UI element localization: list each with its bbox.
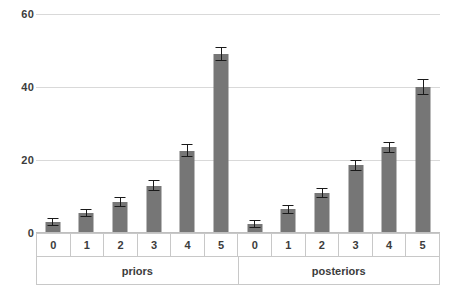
error-bar-cap-bottom — [182, 156, 193, 157]
y-axis-tick-label: 40 — [0, 82, 34, 93]
error-bar-stem — [423, 79, 424, 95]
error-bar-stem — [221, 47, 222, 62]
error-bar — [182, 144, 193, 157]
category-tick-label: 1 — [71, 234, 105, 256]
error-bar-cap-bottom — [384, 152, 395, 153]
bar[interactable] — [348, 165, 363, 233]
error-bar-cap-bottom — [350, 170, 361, 171]
y-axis-tick-label: 60 — [0, 9, 34, 20]
error-bar-cap-bottom — [115, 206, 126, 207]
category-tick-label: 1 — [272, 234, 306, 256]
category-tick-label: 0 — [238, 234, 272, 256]
error-bar — [216, 47, 227, 62]
error-bar-cap-bottom — [47, 225, 58, 226]
error-bar — [249, 220, 260, 227]
error-bar-cap-bottom — [148, 190, 159, 191]
error-bar — [350, 160, 361, 171]
bar-slot — [204, 14, 238, 233]
y-axis-tick-label: 0 — [0, 228, 34, 239]
category-tick-label: 4 — [171, 234, 205, 256]
error-bar — [115, 197, 126, 208]
bar[interactable] — [146, 186, 161, 233]
bar-slot — [36, 14, 70, 233]
bars-layer — [36, 14, 440, 233]
error-bar — [47, 218, 58, 227]
bar-slot — [103, 14, 137, 233]
bar-slot — [137, 14, 171, 233]
y-axis-tick-label: 20 — [0, 155, 34, 166]
error-bar — [148, 180, 159, 191]
bar-slot — [238, 14, 272, 233]
error-bar-cap-bottom — [418, 94, 429, 95]
error-bar-cap-bottom — [317, 197, 328, 198]
group-label: priors — [37, 257, 239, 284]
bar-slot — [406, 14, 440, 233]
bar[interactable] — [180, 151, 195, 233]
y-axis-labels: 0204060 — [0, 0, 34, 290]
category-tick-label: 3 — [138, 234, 172, 256]
bar-slot — [171, 14, 205, 233]
bar[interactable] — [315, 193, 330, 233]
error-bar-cap-bottom — [216, 60, 227, 61]
category-tick-label: 2 — [306, 234, 340, 256]
plot-area — [36, 14, 440, 233]
category-tick-label: 3 — [339, 234, 373, 256]
error-bar — [418, 79, 429, 95]
error-bar-cap-bottom — [283, 213, 294, 214]
category-tick-label: 2 — [104, 234, 138, 256]
category-tick-label: 0 — [37, 234, 71, 256]
bar[interactable] — [416, 87, 431, 233]
bar-chart: 0204060 012345012345 priorsposteriors — [0, 0, 449, 290]
bar-slot — [305, 14, 339, 233]
bar-slot — [339, 14, 373, 233]
error-bar — [81, 209, 92, 218]
bar-slot — [272, 14, 306, 233]
bar[interactable] — [214, 54, 229, 233]
error-bar — [283, 205, 294, 214]
error-bar — [384, 142, 395, 153]
error-bar-cap-bottom — [249, 227, 260, 228]
bar-slot — [373, 14, 407, 233]
error-bar — [317, 188, 328, 197]
bar-slot — [70, 14, 104, 233]
group-axis: priorsposteriors — [36, 257, 440, 285]
category-tick-label: 5 — [205, 234, 239, 256]
group-label: posteriors — [239, 257, 441, 284]
error-bar-cap-bottom — [81, 216, 92, 217]
bar[interactable] — [382, 147, 397, 233]
category-tick-label: 5 — [406, 234, 440, 256]
category-tick-label: 4 — [373, 234, 407, 256]
category-axis: 012345012345 — [36, 233, 440, 257]
